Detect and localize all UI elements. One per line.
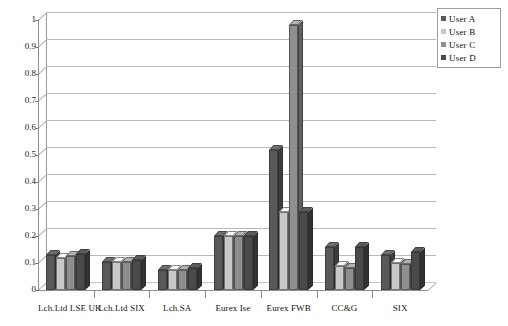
bar-face <box>188 268 197 290</box>
y-axis-tick-label: 0.4 <box>0 176 36 186</box>
gridline <box>46 120 436 121</box>
bar <box>132 260 141 290</box>
gridline <box>46 39 436 40</box>
y-axis-tick-label: 0.8 <box>0 68 36 78</box>
bar <box>188 268 197 290</box>
gridline <box>46 12 436 13</box>
bar <box>158 270 167 290</box>
legend-item-label: User D <box>449 53 476 63</box>
bar-side <box>197 264 202 290</box>
bar-face <box>112 262 121 290</box>
y-axis-tick-label: 0.5 <box>0 149 36 159</box>
bar-face <box>289 25 298 290</box>
x-axis-tick-label: Eurex FWB <box>261 303 317 313</box>
bar <box>411 252 420 290</box>
legend-item[interactable]: User A <box>441 12 498 25</box>
y-axis-tick-label: 0 <box>0 284 36 294</box>
x-axis-tick-label: Lch.Ltd SIX <box>94 303 150 313</box>
gridline <box>46 147 436 148</box>
y-axis-tick-label: 0.1 <box>0 257 36 267</box>
x-axis-tick-label: CC&G <box>317 303 373 313</box>
bar <box>289 25 298 290</box>
x-axis-tick-mark <box>317 290 318 298</box>
bar-side <box>141 256 146 290</box>
y-axis-tick-label: 0.2 <box>0 230 36 240</box>
bar-face <box>269 150 278 290</box>
bar-face <box>224 236 233 290</box>
bar-face <box>355 247 364 290</box>
x-axis-tick-label: Eurex Ise <box>205 303 261 313</box>
plot-area <box>38 12 436 298</box>
legend-swatch-icon <box>441 16 446 21</box>
bar <box>299 212 308 290</box>
bar-face <box>168 270 177 290</box>
legend-item-label: User C <box>449 40 475 50</box>
legend-item[interactable]: User B <box>441 25 498 38</box>
x-axis-tick-mark <box>261 290 262 298</box>
bar-face <box>234 236 243 290</box>
legend-swatch-icon <box>441 55 446 60</box>
chart-legend: User A User B User C User D <box>437 8 501 68</box>
y-axis-tick-mark <box>35 74 39 75</box>
floor-right-edge <box>428 283 437 291</box>
bar-face <box>391 263 400 290</box>
bar-face <box>381 255 390 290</box>
y-axis-tick-mark <box>35 47 39 48</box>
bar <box>279 212 288 290</box>
y-axis-tick-label: 1 <box>0 14 36 24</box>
x-axis-tick-mark <box>149 290 150 298</box>
bar <box>401 264 410 290</box>
bar-face <box>76 254 85 290</box>
bar <box>269 150 278 290</box>
legend-swatch-icon <box>441 42 446 47</box>
y-axis-tick-mark <box>35 101 39 102</box>
x-axis-tick-mark <box>94 290 95 298</box>
bar <box>224 236 233 290</box>
legend-item-label: User B <box>449 27 475 37</box>
bar <box>325 247 334 290</box>
gridline <box>46 66 436 67</box>
bar <box>335 266 344 290</box>
bar-face <box>244 236 253 290</box>
gridline <box>46 228 436 229</box>
y-axis-tick-label: 0.7 <box>0 95 36 105</box>
bar-face <box>299 212 308 290</box>
bar-face <box>325 247 334 290</box>
bar-face <box>214 236 223 290</box>
bar-face <box>56 258 65 290</box>
bar-side <box>364 242 369 290</box>
bar <box>102 262 111 290</box>
bar-face <box>122 262 131 290</box>
x-axis-line <box>38 290 428 291</box>
bar-side <box>253 231 258 290</box>
bar <box>122 262 131 290</box>
y-axis-tick-label: 0.9 <box>0 41 36 51</box>
bar-face <box>158 270 167 290</box>
y-axis-tick-mark <box>35 182 39 183</box>
y-axis-tick-mark <box>35 263 39 264</box>
legend-item[interactable]: User C <box>441 38 498 51</box>
bar-face <box>279 212 288 290</box>
bar <box>76 254 85 290</box>
y-axis-tick-label: 0.3 <box>0 203 36 213</box>
bar-face <box>102 262 111 290</box>
bar-side <box>420 248 425 290</box>
bar <box>381 255 390 290</box>
bar-face <box>46 255 55 290</box>
bar <box>46 255 55 290</box>
bar-chart: 10.90.80.70.60.50.40.30.20.10 Lch.Ltd LS… <box>0 0 508 326</box>
legend-swatch-icon <box>441 29 446 34</box>
x-axis-tick-mark <box>372 290 373 298</box>
bar-face <box>178 270 187 290</box>
bar-face <box>132 260 141 290</box>
y-axis-tick-mark <box>35 155 39 156</box>
bar <box>214 236 223 290</box>
bar-face <box>401 264 410 290</box>
y-axis-tick-mark <box>35 290 39 291</box>
x-axis-tick-mark <box>205 290 206 298</box>
bar <box>66 256 75 290</box>
y-axis-tick-mark <box>35 20 39 21</box>
legend-item[interactable]: User D <box>441 51 498 64</box>
bar-face <box>66 256 75 290</box>
bar-face <box>335 266 344 290</box>
